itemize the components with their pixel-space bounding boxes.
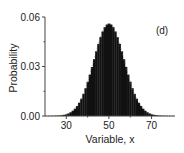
- bar: [129, 82, 131, 116]
- bar: [106, 25, 108, 116]
- bar: [91, 67, 93, 116]
- bar: [82, 94, 84, 116]
- bar: [131, 88, 133, 116]
- y-tick-label: 0.03: [21, 61, 41, 72]
- bar: [127, 75, 129, 116]
- bar: [76, 106, 78, 116]
- bar: [119, 44, 121, 116]
- bar: [125, 67, 127, 116]
- bar: [146, 112, 148, 116]
- bar: [87, 82, 89, 116]
- probability-chart: 0.000.030.06 305070 Variable, x Probabil…: [0, 0, 184, 153]
- x-tick-label: 70: [146, 120, 158, 131]
- bar: [108, 24, 110, 116]
- y-ticks: 0.000.030.06: [21, 12, 45, 122]
- x-tick-label: 30: [61, 120, 73, 131]
- bar: [110, 25, 112, 116]
- bar: [78, 103, 80, 116]
- x-tick-label: 50: [103, 120, 115, 131]
- bar: [121, 51, 123, 116]
- x-ticks: 305070: [61, 116, 158, 131]
- y-tick-label: 0.00: [21, 111, 41, 122]
- bar: [84, 88, 86, 116]
- bar: [133, 94, 135, 116]
- bar: [101, 31, 103, 116]
- y-tick-label: 0.06: [21, 12, 41, 23]
- bar: [97, 44, 99, 116]
- bar: [116, 37, 118, 116]
- bar: [138, 103, 140, 116]
- bar: [136, 99, 138, 116]
- y-axis-label: Probability: [7, 43, 19, 93]
- bar: [114, 31, 116, 116]
- bar: [80, 99, 82, 116]
- bar: [112, 27, 114, 116]
- bar: [99, 37, 101, 116]
- bar: [95, 51, 97, 116]
- distribution-bars: [44, 24, 176, 116]
- bar: [123, 59, 125, 116]
- bar: [104, 27, 106, 116]
- x-axis-label: Variable, x: [86, 133, 136, 145]
- bar: [93, 59, 95, 116]
- bar: [89, 75, 91, 116]
- panel-label: (d): [156, 25, 168, 36]
